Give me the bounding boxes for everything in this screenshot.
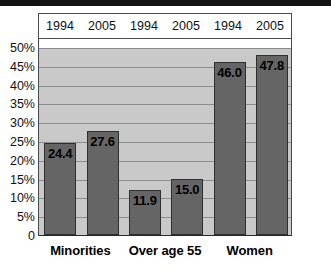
gridline bbox=[39, 142, 291, 143]
y-axis-tick-label: 0 bbox=[1, 229, 35, 243]
year-header-cell: 2005 bbox=[249, 14, 291, 38]
plot-top-band bbox=[39, 39, 291, 49]
bar-value-label: 15.0 bbox=[172, 182, 202, 197]
bar: 11.9 bbox=[129, 190, 161, 235]
plot-area: 24.427.611.915.046.047.8 bbox=[38, 39, 292, 236]
gridline bbox=[39, 198, 291, 199]
gridline bbox=[39, 67, 291, 68]
gridline bbox=[39, 217, 291, 218]
gridline bbox=[39, 86, 291, 87]
y-axis-tick-label: 50% bbox=[1, 41, 35, 55]
y-axis-tick-label: 30% bbox=[1, 116, 35, 130]
year-header-cell: 2005 bbox=[165, 14, 207, 38]
gridline bbox=[39, 123, 291, 124]
bar-value-label: 24.4 bbox=[45, 146, 75, 161]
gridline bbox=[39, 104, 291, 105]
bar-value-label: 47.8 bbox=[257, 58, 287, 73]
year-header-cell: 1994 bbox=[39, 14, 81, 38]
y-axis-tick-label: 10% bbox=[1, 191, 35, 205]
y-axis-tick-label: 15% bbox=[1, 173, 35, 187]
bar-value-label: 11.9 bbox=[130, 193, 160, 208]
page-edge-strip bbox=[0, 0, 331, 6]
y-axis-tick-label: 20% bbox=[1, 154, 35, 168]
year-header-cell: 2005 bbox=[81, 14, 123, 38]
bar: 15.0 bbox=[171, 179, 203, 235]
year-header-cell: 1994 bbox=[123, 14, 165, 38]
y-axis-tick-label: 40% bbox=[1, 79, 35, 93]
y-axis-tick-label: 5% bbox=[1, 210, 35, 224]
year-header-row: 1994 2005 1994 2005 1994 2005 bbox=[38, 13, 292, 39]
bar: 46.0 bbox=[214, 62, 246, 235]
category-label: Women bbox=[190, 243, 310, 258]
gridline bbox=[39, 161, 291, 162]
bar: 47.8 bbox=[256, 55, 288, 235]
bar-value-label: 46.0 bbox=[215, 65, 245, 80]
bar: 24.4 bbox=[44, 143, 76, 235]
y-axis-tick-label: 35% bbox=[1, 97, 35, 111]
year-header-cell: 1994 bbox=[207, 14, 249, 38]
bar-chart-figure: 1994 2005 1994 2005 1994 2005 50%45%40%3… bbox=[0, 0, 331, 279]
bar: 27.6 bbox=[87, 131, 119, 235]
y-axis: 50%45%40%35%30%25%20%15%10%5%0 bbox=[0, 39, 35, 236]
bar-value-label: 27.6 bbox=[88, 134, 118, 149]
gridline bbox=[39, 180, 291, 181]
y-axis-tick-label: 25% bbox=[1, 135, 35, 149]
y-axis-tick-label: 45% bbox=[1, 60, 35, 74]
